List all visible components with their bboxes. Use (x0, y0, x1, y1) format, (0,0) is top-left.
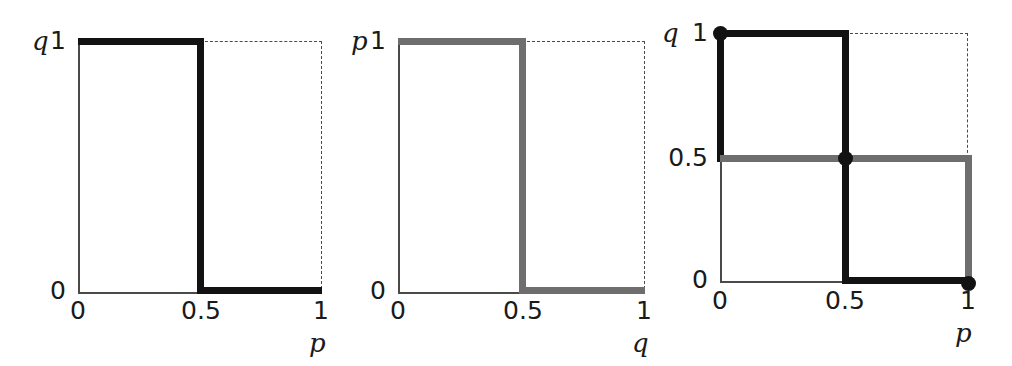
panel-left-curve-lower-segment (197, 287, 322, 294)
panel-middle-x-tick-1: 1 (626, 298, 662, 323)
panel-right-curve-black-upper (720, 30, 848, 37)
panel-right-curve-black-lower (842, 277, 969, 284)
panel-left-x-tick-05: 0.5 (167, 298, 235, 323)
equilibrium-dot-05-05 (838, 151, 853, 166)
panel-right-x-tick-0: 0 (702, 288, 738, 313)
panel-right-dashed-top (845, 33, 968, 34)
panel-left-curve-upper-segment (78, 38, 204, 45)
panel-left-x-tick-1: 1 (303, 298, 339, 323)
panel-middle-x-axis-label: q (632, 330, 649, 356)
panel-left-dashed-top (200, 41, 322, 42)
panel-middle-x-tick-0: 0 (380, 298, 416, 323)
panel-middle-dashed-top (522, 41, 645, 42)
panel-left-dashed-right (321, 41, 322, 294)
panel-middle-curve-lower-segment (519, 287, 645, 294)
panel-left-y-tick-1: 1 (33, 28, 66, 53)
equilibrium-dot-0-1 (713, 26, 728, 41)
panel-left-y-axis (78, 41, 80, 294)
panel-middle-curve-drop-segment (519, 38, 526, 294)
panel-left-x-axis-label: p (309, 330, 326, 356)
panel-left-curve-drop-segment (197, 38, 204, 294)
panel-right-y-tick-05: 0.5 (652, 145, 708, 170)
panel-middle-y-axis (398, 41, 400, 294)
panel-right-curve-black-left-edge (717, 30, 724, 162)
panel-middle-curve-upper-segment (398, 38, 526, 45)
panel-right-y-tick-1: 1 (675, 20, 708, 45)
panel-middle-x-tick-05: 0.5 (489, 298, 557, 323)
panel-right-x-tick-05: 0.5 (811, 288, 879, 313)
panel-right-x-axis-label: p (955, 320, 972, 346)
panel-right-dashed-right (967, 33, 968, 158)
panel-right-x-tick-1: 1 (950, 288, 986, 313)
figure-three-panel-best-response: q 1 0 0 0.5 1 p p 1 0 0 0.5 1 q (0, 0, 1012, 366)
panel-right-curve-gray-drop (965, 155, 972, 283)
panel-middle-dashed-right (644, 41, 645, 294)
panel-left-x-tick-0: 0 (60, 298, 96, 323)
panel-middle-y-tick-1: 1 (353, 28, 386, 53)
